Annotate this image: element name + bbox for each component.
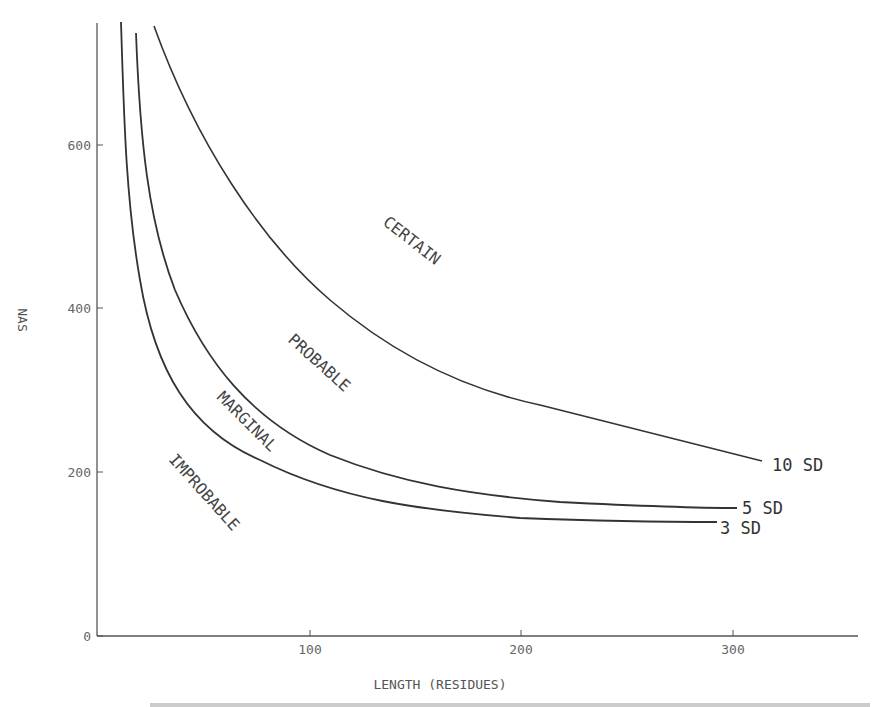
x-tick-label: 200 — [509, 642, 532, 657]
y-ticks: 0 200 400 600 — [68, 138, 103, 644]
x-tick-label: 300 — [721, 642, 744, 657]
curve-5sd — [136, 33, 737, 508]
region-label-probable: PROBABLE — [284, 330, 354, 396]
curve-10sd — [154, 26, 762, 461]
chart: 0 200 400 600 100 200 300 LENGTH (RESIDU… — [0, 0, 876, 707]
y-tick-label: 400 — [68, 301, 91, 316]
y-tick-label: 200 — [68, 465, 91, 480]
series-label-3sd: 3 SD — [720, 518, 761, 538]
series-label-5sd: 5 SD — [742, 498, 783, 518]
y-tick-label: 0 — [83, 629, 91, 644]
x-tick-label: 100 — [298, 642, 321, 657]
x-axis-label: LENGTH (RESIDUES) — [373, 677, 506, 692]
cut-off-caption — [150, 703, 870, 707]
x-ticks: 100 200 300 — [298, 630, 744, 657]
region-label-improbable: IMPROBABLE — [165, 450, 244, 534]
y-tick-label: 600 — [68, 138, 91, 153]
region-label-certain: CERTAIN — [380, 212, 445, 268]
series-label-10sd: 10 SD — [772, 455, 823, 475]
curve-3sd — [121, 22, 717, 522]
y-axis-label: NAS — [15, 308, 30, 331]
